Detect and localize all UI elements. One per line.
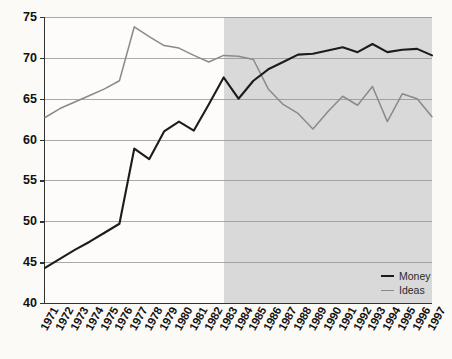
- y-axis-tick-label: 55: [23, 173, 37, 187]
- y-axis-tick-label: 65: [23, 92, 37, 106]
- chart-root: 4045505560657075 Money Ideas 19711972197…: [0, 0, 452, 359]
- y-axis-tick-label: 50: [23, 214, 37, 228]
- y-axis-tick-label: 60: [23, 133, 37, 147]
- series-line-ideas: [45, 27, 432, 129]
- legend-swatch-money-icon: [381, 275, 394, 277]
- y-axis-tick-label: 40: [23, 296, 37, 310]
- series-line-money: [45, 44, 432, 268]
- x-axis-labels: 1971197219731974197519761977197819791980…: [45, 305, 432, 359]
- plot-area: Money Ideas: [45, 17, 432, 303]
- legend-item-money: Money: [381, 270, 431, 282]
- legend-item-ideas: Ideas: [381, 284, 431, 296]
- chart-legend: Money Ideas: [381, 270, 431, 296]
- y-axis-tick-label: 45: [23, 255, 37, 269]
- series-lines: [45, 17, 432, 303]
- y-axis-tick-label: 75: [23, 10, 37, 24]
- y-axis-tick-label: 70: [23, 51, 37, 65]
- legend-label-money: Money: [399, 270, 431, 282]
- legend-label-ideas: Ideas: [399, 284, 425, 296]
- legend-swatch-ideas-icon: [381, 290, 394, 291]
- y-axis-labels: 4045505560657075: [0, 17, 45, 303]
